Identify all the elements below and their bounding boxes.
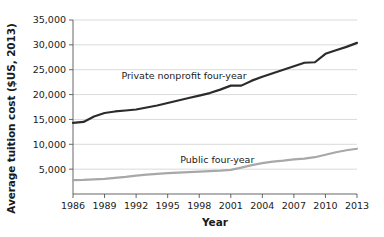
y-tick-label: 10,000 [33, 139, 66, 150]
x-tick-label: 1995 [156, 200, 180, 211]
y-tick-label: 35,000 [33, 14, 66, 25]
chart-plot-area: 5,00010,00015,00020,00025,00030,00035,00… [0, 0, 384, 237]
series-label-1: Public four-year [180, 154, 254, 165]
axis-lines-group [73, 20, 357, 194]
x-tick-label: 1989 [92, 200, 116, 211]
x-tick-label: 1992 [124, 200, 148, 211]
series-labels-group: Private nonprofit four-yearPublic four-y… [121, 70, 254, 165]
x-axis-ticks-group: 1986198919921995199820012004200720102013 [61, 194, 369, 211]
series-line-0 [73, 43, 357, 123]
x-tick-label: 2007 [282, 200, 306, 211]
x-axis-title: Year [73, 216, 357, 228]
y-axis-ticks-group: 5,00010,00015,00020,00025,00030,00035,00… [33, 14, 73, 174]
y-tick-label: 20,000 [33, 89, 66, 100]
series-label-0: Private nonprofit four-year [121, 70, 246, 81]
x-tick-label: 2010 [313, 200, 337, 211]
x-tick-label: 2004 [250, 200, 274, 211]
x-tick-label: 2001 [219, 200, 243, 211]
x-tick-label: 2013 [345, 200, 369, 211]
y-tick-label: 25,000 [33, 64, 66, 75]
y-tick-label: 15,000 [33, 114, 66, 125]
x-tick-label: 1986 [61, 200, 85, 211]
x-tick-label: 1998 [187, 200, 211, 211]
gridlines-group [73, 20, 357, 169]
y-tick-label: 30,000 [33, 39, 66, 50]
y-tick-label: 5,000 [39, 164, 66, 175]
tuition-cost-line-chart: Average tuition cost ($US, 2013) 5,00010… [0, 0, 384, 237]
